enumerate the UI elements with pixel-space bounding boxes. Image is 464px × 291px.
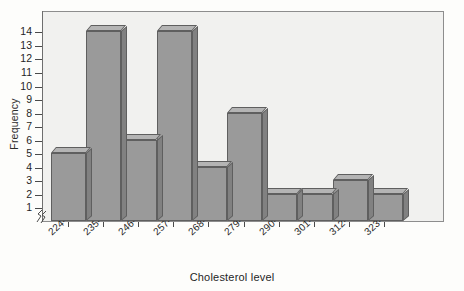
y-tick-mark xyxy=(35,87,42,88)
y-tick-label: 9 xyxy=(10,93,32,105)
y-tick-label: 5 xyxy=(10,147,32,159)
y-tick-mark xyxy=(35,141,42,142)
y-tick-mark xyxy=(35,46,42,47)
y-tick-mark xyxy=(35,73,42,74)
bar-side-face xyxy=(297,189,303,221)
bar-side-face xyxy=(192,26,198,221)
bars-container xyxy=(43,12,443,221)
bar-side-face xyxy=(121,26,127,221)
y-tick-mark xyxy=(35,181,42,182)
y-tick-label: 14 xyxy=(10,25,32,37)
bar-side-face xyxy=(227,162,233,221)
y-tick-label: 12 xyxy=(10,52,32,64)
bar-top-face xyxy=(297,188,337,194)
y-tick-label: 6 xyxy=(10,134,32,146)
bar-side-face xyxy=(262,108,268,221)
bar-side-face xyxy=(403,189,409,221)
y-tick-label: 13 xyxy=(10,39,32,51)
x-axis-title: Cholesterol level xyxy=(0,271,464,283)
y-tick-label: 10 xyxy=(10,80,32,92)
bar-top-face xyxy=(121,134,161,140)
y-tick-label: 2 xyxy=(10,188,32,200)
y-tick-mark xyxy=(35,127,42,128)
y-tick-mark xyxy=(35,100,42,101)
bar-side-face xyxy=(333,189,339,221)
bar-top-face xyxy=(227,107,267,113)
y-tick-mark xyxy=(35,168,42,169)
y-tick-label: 4 xyxy=(10,161,32,173)
y-tick-label: 8 xyxy=(10,107,32,119)
bar-side-face xyxy=(368,175,374,221)
y-tick-label: 1 xyxy=(10,201,32,213)
y-tick-label: 7 xyxy=(10,120,32,132)
plot-area xyxy=(42,11,444,222)
y-tick-mark xyxy=(35,195,42,196)
bar-side-face xyxy=(86,148,92,221)
y-tick-mark xyxy=(35,208,42,209)
axis-break-icon xyxy=(34,209,50,225)
bar-top-face xyxy=(86,25,126,31)
bar-top-face xyxy=(262,188,302,194)
y-tick-mark xyxy=(35,59,42,60)
bar-top-face xyxy=(51,147,91,153)
y-tick-mark xyxy=(35,32,42,33)
bar-front-face xyxy=(51,153,86,221)
bar-top-face xyxy=(333,174,373,180)
histogram-figure: Frequency 1234567891011121314 224–234235… xyxy=(0,0,464,291)
y-tick-mark xyxy=(35,154,42,155)
y-tick-mark xyxy=(35,114,42,115)
y-tick-label: 11 xyxy=(10,66,32,78)
bar-top-face xyxy=(157,25,197,31)
bar-side-face xyxy=(157,135,163,221)
y-tick-label: 3 xyxy=(10,174,32,186)
y-axis-line xyxy=(42,11,43,222)
histogram-bar xyxy=(51,147,86,221)
